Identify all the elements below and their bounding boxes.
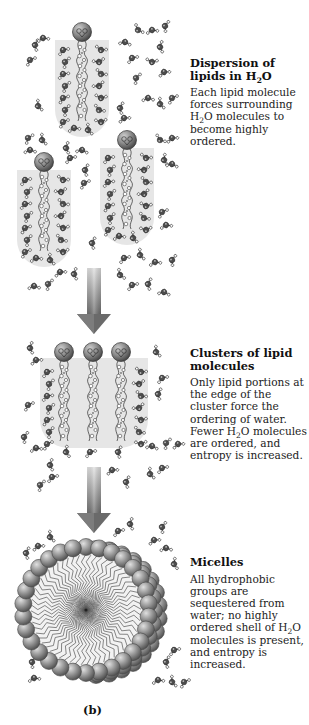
lipid-molecule-icon	[17, 153, 71, 268]
panel-label: (b)	[83, 703, 102, 717]
lipid-molecule-icon	[55, 23, 109, 138]
clusters-description: Only lipid portions at the edge of the c…	[190, 376, 309, 461]
micelle-icon	[15, 539, 167, 684]
clusters-title: Clusters of lipid molecules	[190, 347, 309, 372]
dispersion-caption: Dispersion of lipids in H2O Each lipid m…	[190, 57, 309, 147]
micelles-stage	[15, 517, 191, 689]
clusters-stage	[20, 341, 185, 492]
dispersion-stage	[17, 20, 180, 300]
dispersion-title: Dispersion of lipids in H2O	[190, 57, 309, 82]
down-arrow-icon	[77, 467, 111, 533]
micelles-title: Micelles	[190, 556, 309, 569]
clusters-caption: Clusters of lipid molecules Only lipid p…	[190, 347, 309, 461]
down-arrow-icon	[77, 268, 111, 334]
micelles-caption: Micelles All hydrophobic groups are sequ…	[190, 556, 309, 670]
lipid-molecule-icon	[100, 131, 154, 246]
dispersion-description: Each lipid molecule forces surrounding H…	[190, 86, 309, 147]
micelles-description: All hydrophobic groups are sequestered f…	[190, 573, 309, 671]
